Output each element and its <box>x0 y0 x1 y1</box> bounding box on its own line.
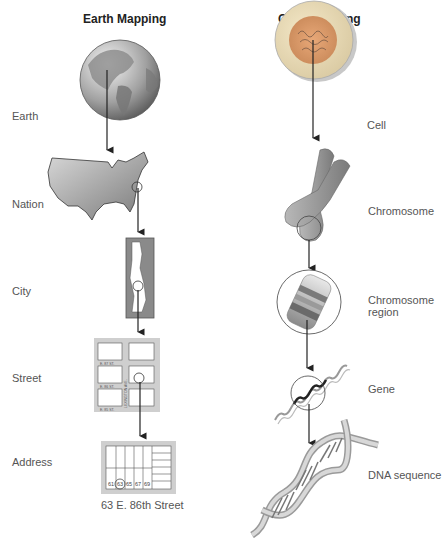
chromosome-region-icon <box>277 270 341 334</box>
avenue-label: LEXINGTON AVE. <box>124 379 128 408</box>
usa-map-icon <box>48 152 148 220</box>
house-number: 63 <box>117 481 123 487</box>
chromosome-icon <box>285 149 350 241</box>
street-grid-icon: E. 87 ST. E. 86 ST. E. 85 ST. LEXINGTON … <box>94 338 160 412</box>
address-block-icon: 61 63 65 67 69 <box>101 441 176 494</box>
address-caption: 63 E. 86th Street <box>101 499 184 512</box>
level-label-gene: Gene <box>368 383 395 396</box>
level-label-chromosome: Chromosome <box>368 205 434 218</box>
globe-icon <box>80 40 160 120</box>
house-number: 67 <box>135 481 141 487</box>
street-label-85: E. 85 ST. <box>100 408 114 412</box>
house-number: 61 <box>108 481 114 487</box>
level-label-dna-sequence: DNA sequence <box>368 469 441 482</box>
street-label-87: E. 87 ST. <box>100 362 114 366</box>
house-number: 65 <box>126 481 132 487</box>
mapping-diagram: E. 87 ST. E. 86 ST. E. 85 ST. LEXINGTON … <box>0 0 447 550</box>
level-label-earth: Earth <box>12 110 38 123</box>
cell-icon <box>275 1 357 82</box>
house-number: 69 <box>144 481 150 487</box>
level-label-street: Street <box>12 372 41 385</box>
city-map-icon <box>126 238 154 318</box>
level-label-city: City <box>12 285 31 298</box>
level-label-nation: Nation <box>12 198 44 211</box>
gene-helix-icon <box>275 366 350 424</box>
level-label-address: Address <box>12 456 52 469</box>
level-label-cell: Cell <box>367 119 386 132</box>
street-label-86: E. 86 ST. <box>100 385 114 389</box>
level-label-chromosome-region-line2: region <box>368 306 399 319</box>
dna-double-helix-icon <box>252 420 378 535</box>
